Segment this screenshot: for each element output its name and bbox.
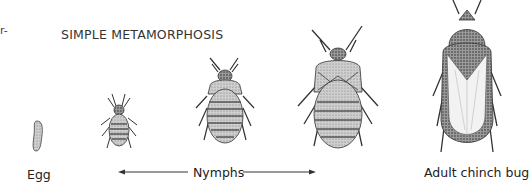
egg-illustration (30, 119, 46, 155)
cutoff-text: r- (0, 24, 8, 37)
egg-label: Egg (27, 167, 51, 182)
nymph-middle-instar-illustration (190, 56, 260, 152)
adult-label: Adult chinch bug (424, 165, 529, 180)
nymphs-right-arrow-icon (243, 168, 316, 176)
nymphs-label: Nymphs (193, 165, 244, 180)
nymph-first-instar-illustration (96, 92, 142, 152)
nymph-late-instar-illustration (290, 24, 386, 156)
nymphs-left-arrow-icon (118, 168, 188, 176)
adult-chinch-bug-illustration (415, 0, 519, 160)
diagram-title: SIMPLE METAMORPHOSIS (61, 27, 223, 42)
